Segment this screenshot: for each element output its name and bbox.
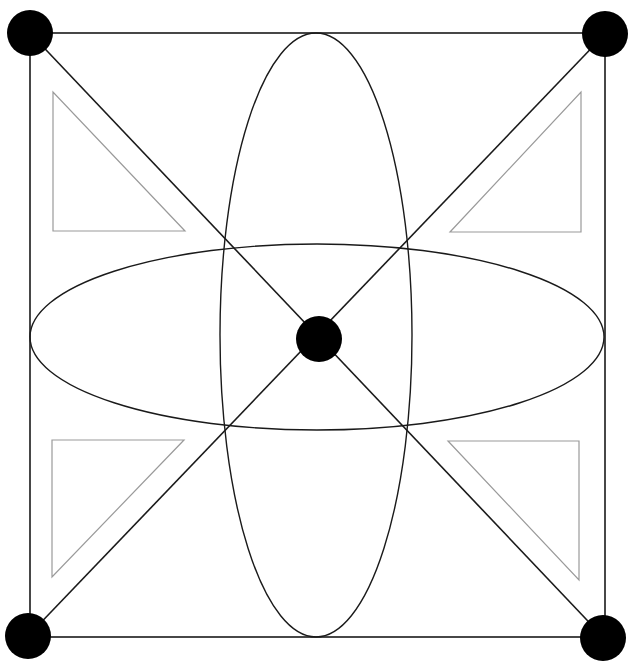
node-top-right: [582, 11, 628, 57]
geometric-diagram: [0, 0, 634, 669]
node-center: [296, 316, 342, 362]
node-bottom-left: [5, 613, 51, 659]
node-top-left: [7, 10, 53, 56]
node-bottom-right: [580, 615, 626, 661]
